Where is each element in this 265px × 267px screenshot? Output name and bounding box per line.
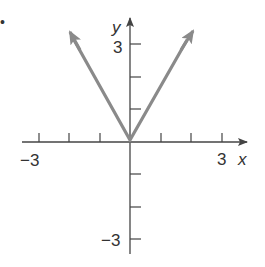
- x-axis-label: x: [237, 150, 247, 169]
- bullet: •: [0, 14, 5, 30]
- y-tick-label-3: 3: [113, 38, 122, 57]
- y-tick-label-neg3: −3: [101, 231, 120, 250]
- x-tick-label-neg3: −3: [20, 151, 39, 170]
- left-arrow-icon: [70, 32, 80, 50]
- y-axis-label: y: [111, 18, 122, 37]
- chart: • y 3 −3 3 x −3: [0, 0, 265, 267]
- right-arrow-icon: [181, 31, 193, 50]
- x-tick-label-3: 3: [217, 150, 226, 169]
